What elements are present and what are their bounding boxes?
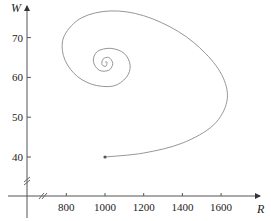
start-point-marker xyxy=(103,155,106,158)
trajectory-curve xyxy=(62,11,227,157)
y-tick-label: 70 xyxy=(12,32,24,44)
phase-plot: 8001000120014001600 40506070 W R xyxy=(0,0,271,221)
y-tick-label: 60 xyxy=(12,71,24,83)
x-tick-label: 1400 xyxy=(171,201,194,213)
y-tick-label: 40 xyxy=(12,151,24,163)
x-tick-label: 1600 xyxy=(210,201,233,213)
x-axis-title: R xyxy=(256,202,265,216)
x-tick-label: 1200 xyxy=(133,201,156,213)
x-tick-label: 800 xyxy=(58,201,75,213)
y-tick-label: 50 xyxy=(12,111,24,123)
x-tick-label: 1000 xyxy=(94,201,117,213)
y-ticks: 40506070 xyxy=(12,32,31,163)
y-axis-title: W xyxy=(11,1,22,15)
